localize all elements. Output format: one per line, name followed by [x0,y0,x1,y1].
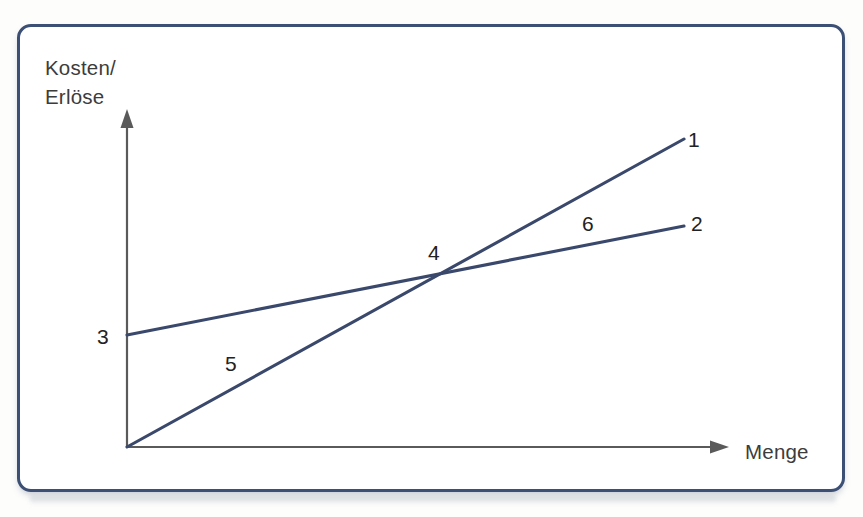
label-2: 2 [691,212,703,235]
label-6: 6 [582,212,594,235]
label-5: 5 [225,352,237,375]
label-1: 1 [688,128,700,151]
label-4: 4 [428,241,440,264]
series-line-2 [127,226,684,335]
x-axis-label: Menge [745,440,809,463]
x-axis [127,441,729,454]
break-even-chart: Kosten/ Erlöse Menge 1 2 3 4 5 6 [0,0,863,517]
figure-container: Kosten/ Erlöse Menge 1 2 3 4 5 6 [0,0,863,517]
y-axis-label-line1: Kosten/ [45,56,116,79]
y-axis [121,109,134,447]
y-axis-arrow-icon [121,109,134,128]
series-line-1 [127,139,684,447]
x-axis-arrow-icon [710,441,729,454]
label-3: 3 [97,325,109,348]
y-axis-label-line2: Erlöse [45,85,104,108]
